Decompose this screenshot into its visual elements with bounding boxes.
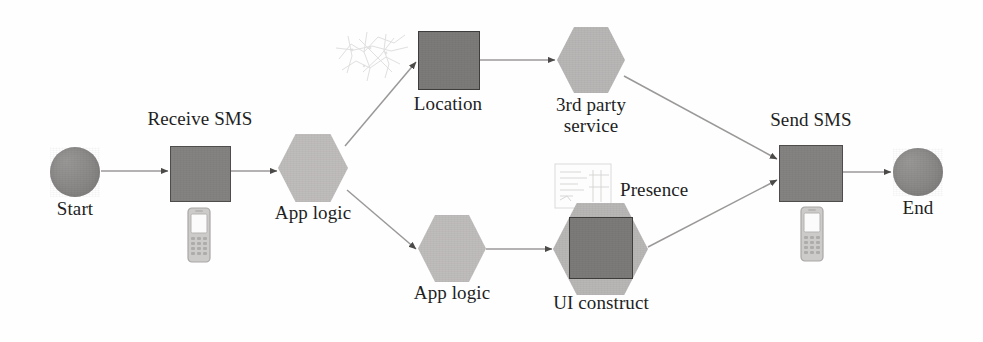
- node-app-logic-2-label: App logic: [402, 283, 502, 304]
- node-app-logic-1-label: App logic: [263, 203, 363, 224]
- node-app-logic-2[interactable]: [418, 215, 486, 282]
- node-receive-sms[interactable]: [170, 146, 231, 202]
- phone-icon-1: [184, 206, 214, 264]
- diagram-canvas: Start Receive SMS App logic Location 3rd…: [0, 0, 983, 342]
- node-start[interactable]: [50, 147, 100, 197]
- node-end-label: End: [874, 198, 962, 219]
- node-send-sms-label: Send SMS: [753, 110, 869, 131]
- phone-icon-2: [797, 205, 827, 267]
- node-end[interactable]: [893, 148, 943, 196]
- node-presence-label: Presence: [620, 180, 720, 201]
- node-receive-sms-label: Receive SMS: [134, 109, 266, 130]
- hexagon-shape: [418, 215, 486, 282]
- hexagon-shape: [557, 27, 625, 93]
- node-app-logic-1[interactable]: [278, 134, 348, 202]
- node-start-label: Start: [28, 199, 122, 220]
- node-send-sms[interactable]: [779, 145, 843, 202]
- node-location-label: Location: [404, 94, 492, 115]
- node-ui-construct[interactable]: [553, 203, 648, 295]
- hexagon-shape: [278, 134, 348, 202]
- node-third-party-service-label: 3rd party service: [531, 95, 651, 136]
- node-location[interactable]: [418, 31, 480, 90]
- node-ui-construct-label: UI construct: [540, 293, 662, 314]
- node-third-party-service[interactable]: [557, 27, 625, 93]
- ui-construct-square: [569, 217, 633, 279]
- map-icon: [334, 26, 410, 84]
